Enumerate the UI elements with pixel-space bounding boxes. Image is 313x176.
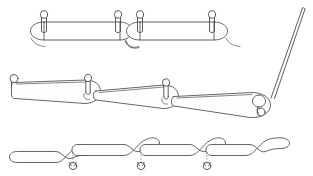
loop-mid-3-eye (163, 79, 170, 86)
loop-mid-2-eye (85, 74, 92, 81)
diagram-canvas: Chain stitch linkage diagram Three-row t… (0, 0, 313, 176)
loop-mid-4-lower-eye (257, 108, 265, 116)
linkage-diagram-svg (0, 0, 313, 176)
